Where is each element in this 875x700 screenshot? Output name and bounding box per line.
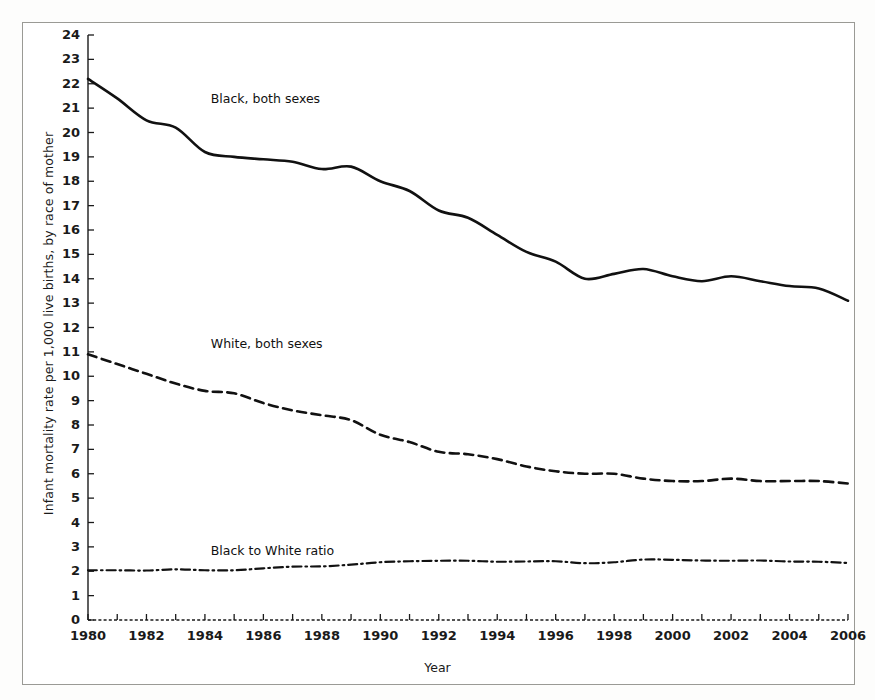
y-tick-label: 15 — [50, 246, 80, 261]
y-tick-label: 22 — [50, 76, 80, 91]
series-label: Black, both sexes — [211, 91, 320, 106]
x-tick-label: 1980 — [61, 628, 115, 643]
y-tick-label: 1 — [50, 588, 80, 603]
x-tick-label: 1988 — [295, 628, 349, 643]
y-tick-label: 23 — [50, 51, 80, 66]
x-axis-label: Year — [0, 660, 875, 675]
x-tick-label: 2004 — [763, 628, 817, 643]
y-tick-label: 18 — [50, 173, 80, 188]
x-tick-label: 1994 — [470, 628, 524, 643]
y-tick-label: 11 — [50, 344, 80, 359]
y-tick-label: 20 — [50, 125, 80, 140]
y-tick-label: 7 — [50, 441, 80, 456]
x-tick-label: 1990 — [353, 628, 407, 643]
y-tick-label: 12 — [50, 320, 80, 335]
y-tick-label: 24 — [50, 27, 80, 42]
chart-figure: Infant mortality rate per 1,000 live bir… — [0, 0, 875, 700]
x-tick-label: 2000 — [646, 628, 700, 643]
y-tick-label: 5 — [50, 490, 80, 505]
x-tick-label: 1984 — [178, 628, 232, 643]
y-tick-label: 13 — [50, 295, 80, 310]
y-tick-label: 16 — [50, 222, 80, 237]
y-tick-label: 2 — [50, 563, 80, 578]
y-tick-label: 19 — [50, 149, 80, 164]
y-tick-label: 0 — [50, 612, 80, 627]
x-tick-label: 1998 — [587, 628, 641, 643]
y-tick-label: 8 — [50, 417, 80, 432]
series-label: White, both sexes — [211, 336, 323, 351]
y-tick-label: 14 — [50, 271, 80, 286]
x-tick-label: 2006 — [821, 628, 875, 643]
series-label: Black to White ratio — [211, 543, 334, 558]
x-tick-label: 1996 — [529, 628, 583, 643]
x-tick-label: 2002 — [704, 628, 758, 643]
x-tick-label: 1986 — [236, 628, 290, 643]
y-tick-label: 17 — [50, 198, 80, 213]
y-tick-label: 4 — [50, 515, 80, 530]
figure-border — [22, 22, 855, 685]
y-tick-label: 21 — [50, 100, 80, 115]
x-tick-label: 1982 — [119, 628, 173, 643]
y-tick-label: 6 — [50, 466, 80, 481]
y-tick-label: 10 — [50, 368, 80, 383]
x-tick-label: 1992 — [412, 628, 466, 643]
y-tick-label: 9 — [50, 393, 80, 408]
y-tick-label: 3 — [50, 539, 80, 554]
